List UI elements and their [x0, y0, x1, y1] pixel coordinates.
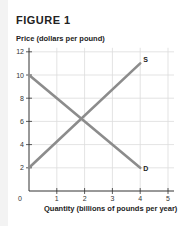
y-tick-label: 2 — [20, 164, 24, 171]
grid-lines — [29, 48, 174, 191]
curve-label-d: D — [143, 165, 148, 172]
tick-labels: 24681012123450 — [16, 48, 170, 202]
x-tick-label: 2 — [83, 195, 87, 202]
origin-label: 0 — [18, 195, 22, 202]
y-tick-label: 8 — [20, 95, 24, 102]
supply-demand-chart: 24681012123450 SD — [0, 0, 188, 226]
x-tick-label: 5 — [166, 195, 170, 202]
curve-label-s: S — [143, 56, 148, 63]
y-tick-label: 4 — [20, 141, 24, 148]
x-tick-label: 4 — [138, 195, 142, 202]
y-tick-label: 6 — [20, 118, 24, 125]
axes — [26, 48, 174, 194]
curves: SD — [29, 56, 148, 171]
x-tick-label: 3 — [110, 195, 114, 202]
y-tick-label: 12 — [16, 48, 24, 55]
y-tick-label: 10 — [16, 72, 24, 79]
x-tick-label: 1 — [55, 195, 59, 202]
